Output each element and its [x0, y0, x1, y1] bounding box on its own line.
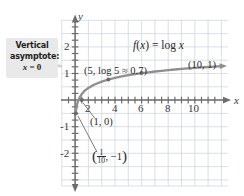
- x-tick-label-2: 2: [85, 103, 91, 114]
- callout-equation-rest: = 0: [27, 62, 41, 72]
- function-equals-log: = log: [149, 39, 179, 51]
- y-axis-label: y: [78, 11, 83, 22]
- point-marker-tenth: [74, 111, 78, 115]
- y-tick-label-1: 1: [64, 68, 70, 79]
- vertical-asymptote-callout: Vertical asymptote: x = 0: [6, 38, 58, 78]
- graph-svg: [0, 0, 244, 196]
- tenth-rest: , −1: [106, 151, 122, 162]
- point-label-tenth: (110, −1): [92, 149, 127, 166]
- one-tenth-fraction: 110: [97, 149, 106, 166]
- callout-line-3: x = 0: [10, 62, 54, 74]
- y-tick-label-2: 2: [64, 41, 70, 52]
- x-tick-label-6: 6: [138, 103, 144, 114]
- tenth-close-paren: ): [122, 148, 127, 164]
- y-tick-label-neg1: -1: [60, 121, 69, 132]
- callout-line-2: asymptote:: [10, 52, 54, 63]
- x-tick-label-4: 4: [112, 103, 118, 114]
- x-axis-arrow: [223, 97, 231, 104]
- x-tick-label-10: 10: [188, 103, 199, 114]
- curve-end-arrow: [220, 63, 227, 69]
- x-tick-label-8: 8: [165, 103, 171, 114]
- y-axis-arrow-down: [72, 184, 79, 192]
- function-variable: x: [179, 39, 184, 51]
- figure-canvas: Vertical asymptote: x = 0 f(x) = log x (…: [0, 0, 244, 196]
- x-axis-label: x: [234, 95, 239, 106]
- point-label-five: (5, log 5 ≈ 0.7): [84, 66, 147, 77]
- point-label-ten: (10, 1): [188, 60, 216, 71]
- y-tick-label-neg2: -2: [60, 148, 69, 159]
- fraction-denominator: 10: [97, 157, 106, 165]
- point-marker-one: [80, 98, 84, 102]
- function-label: f(x) = log x: [133, 40, 184, 52]
- point-label-one: (1, 0): [90, 117, 113, 128]
- callout-line-1: Vertical: [10, 41, 54, 52]
- point-marker-five: [106, 78, 110, 82]
